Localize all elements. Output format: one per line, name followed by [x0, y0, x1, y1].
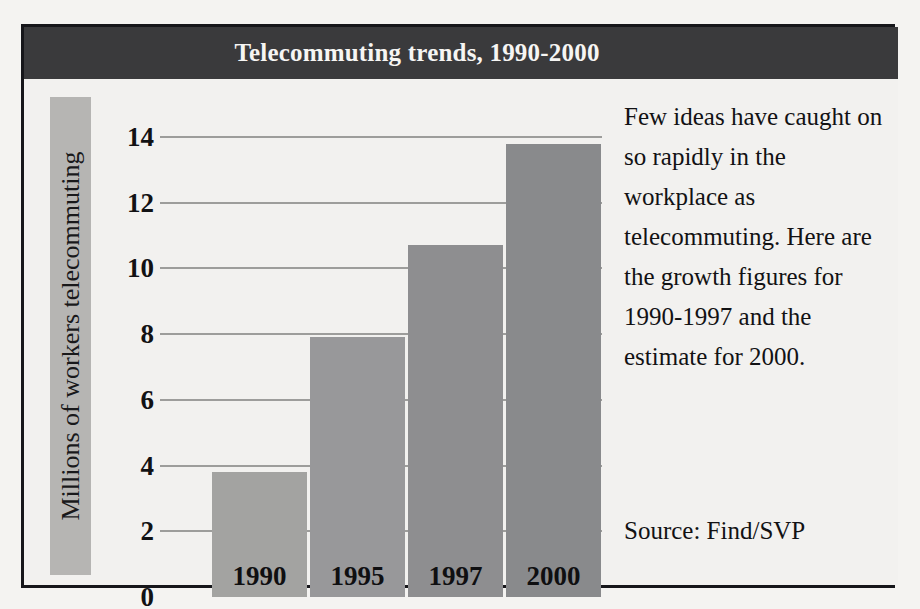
bar-1995: 1995 — [310, 337, 405, 597]
x-axis-category-label: 1997 — [408, 563, 503, 590]
y-axis-tick-labels: 02468101214 — [98, 79, 160, 585]
y-tick-label: 8 — [141, 321, 155, 348]
y-tick-label: 12 — [127, 189, 154, 216]
page-title: Telecommuting trends, 1990-2000 — [234, 39, 599, 67]
x-axis-category-label: 2000 — [506, 563, 601, 590]
chart-page: Telecommuting trends, 1990-2000 Millions… — [0, 0, 920, 609]
y-tick-label: 4 — [141, 452, 155, 479]
chart-title-bar: Telecommuting trends, 1990-2000 — [24, 27, 898, 79]
bar-1997: 1997 — [408, 245, 503, 597]
bar-fill — [408, 245, 503, 597]
side-commentary: Few ideas have caught on so rapidly in t… — [624, 97, 886, 377]
commentary-text: Few ideas have caught on so rapidly in t… — [624, 97, 886, 377]
bar-1990: 1990 — [212, 472, 307, 597]
y-tick-label: 6 — [141, 386, 155, 413]
y-axis-title: Millions of workers telecommuting — [58, 151, 84, 520]
x-axis-category-label: 1990 — [212, 563, 307, 590]
figure-body: Millions of workers telecommuting 024681… — [24, 79, 898, 585]
y-tick-label: 0 — [141, 584, 155, 609]
y-axis-title-plate: Millions of workers telecommuting — [50, 97, 91, 575]
source-credit: Source: Find/SVP — [624, 511, 805, 551]
bar-fill — [506, 144, 601, 597]
plot-area: 1990199519972000 — [160, 79, 602, 585]
x-axis-category-label: 1995 — [310, 563, 405, 590]
bar-2000: 2000 — [506, 144, 601, 597]
bar-group: 1990199519972000 — [212, 77, 602, 597]
figure-frame: Telecommuting trends, 1990-2000 Millions… — [21, 24, 895, 588]
y-tick-label: 14 — [127, 124, 154, 151]
y-tick-label: 2 — [141, 518, 155, 545]
bar-fill — [310, 337, 405, 597]
y-tick-label: 10 — [127, 255, 154, 282]
